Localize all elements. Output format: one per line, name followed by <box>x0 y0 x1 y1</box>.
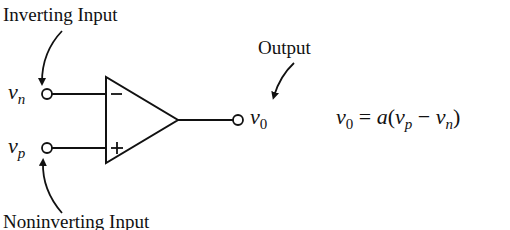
vn-label: vn <box>8 79 25 108</box>
inverting-arrow-icon <box>42 31 62 82</box>
op-amp-diagram: Inverting Input Output Noninverting Inpu… <box>0 0 510 230</box>
output-label: Output <box>258 37 311 59</box>
gain-equation: v0 = a(vp − vn) <box>336 104 460 133</box>
noninverting-arrow-icon <box>43 162 62 213</box>
v0-label: v0 <box>250 104 267 133</box>
noninverting-input-label: Noninverting Input <box>3 211 149 230</box>
output-arrow-icon <box>274 63 294 96</box>
inverting-input-label: Inverting Input <box>3 4 118 26</box>
inverting-terminal <box>42 89 52 99</box>
output-terminal <box>233 115 243 125</box>
noninverting-terminal <box>42 143 52 153</box>
vp-label: vp <box>8 133 25 162</box>
